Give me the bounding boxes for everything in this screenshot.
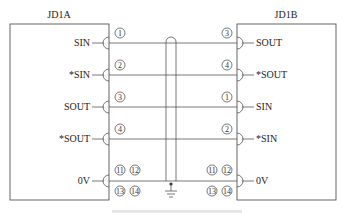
jd1a-box (10, 24, 109, 200)
left-label-sin: SIN (74, 37, 90, 48)
left-label-0v: 0V (78, 175, 91, 186)
svg-text:13: 13 (208, 187, 216, 196)
right-label-0v: 0V (256, 175, 269, 186)
left-label-sout: SOUT (64, 101, 90, 112)
jd1b-title: JD1B (275, 9, 298, 20)
ground-icon (165, 184, 177, 197)
svg-text:14: 14 (223, 187, 231, 196)
left-connectors (92, 37, 109, 187)
jd1b-box (237, 24, 336, 200)
right-connectors (237, 37, 254, 187)
right-pin-numbers: 3 4 1 2 11 12 13 14 (207, 28, 232, 196)
svg-text:14: 14 (131, 187, 139, 196)
svg-text:12: 12 (223, 166, 231, 175)
svg-text:2: 2 (225, 125, 229, 134)
svg-text:3: 3 (118, 93, 122, 102)
svg-text:3: 3 (225, 29, 229, 38)
svg-text:1: 1 (225, 93, 229, 102)
caption-remnant (112, 210, 242, 213)
svg-text:11: 11 (208, 166, 216, 175)
left-label-nsout: *SOUT (59, 133, 90, 144)
svg-text:4: 4 (225, 61, 229, 70)
right-label-sin: SIN (256, 101, 272, 112)
signal-wires (109, 43, 237, 181)
svg-text:4: 4 (118, 125, 122, 134)
svg-text:2: 2 (118, 61, 122, 70)
svg-text:12: 12 (131, 166, 139, 175)
svg-text:1: 1 (118, 29, 122, 38)
svg-text:13: 13 (116, 187, 124, 196)
left-pin-numbers: 1 2 3 4 11 12 13 14 (115, 28, 140, 196)
right-label-sout: SOUT (256, 37, 282, 48)
wiring-diagram: JD1A JD1B SIN *SIN SOUT *SOUT 0V SOUT *S… (0, 0, 346, 213)
right-label-nsin: *SIN (256, 133, 277, 144)
cable-shield (166, 37, 176, 181)
right-label-nsout: *SOUT (256, 69, 287, 80)
svg-text:11: 11 (116, 166, 124, 175)
jd1a-title: JD1A (47, 9, 71, 20)
left-label-nsin: *SIN (69, 69, 90, 80)
